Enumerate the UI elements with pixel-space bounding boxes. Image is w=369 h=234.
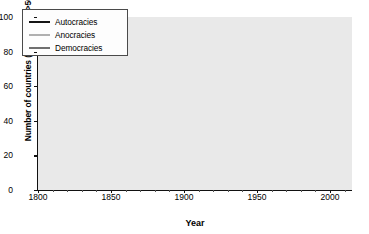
x-minor-tick-mark [272, 190, 273, 192]
legend-item-democracies: Democracies [29, 41, 127, 54]
y-tick-label: 60 [0, 81, 13, 91]
legend-item-label: Anocracies [55, 30, 95, 40]
y-tick-mark [34, 17, 37, 18]
x-tick-mark [330, 190, 331, 193]
x-minor-tick-mark [301, 190, 302, 192]
x-tick-mark [257, 190, 258, 193]
legend-item-label: Democracies [55, 43, 102, 53]
chart-figure: Number of countries (population >500,000… [0, 0, 369, 234]
x-tick-mark [111, 190, 112, 193]
legend-item-anocracies: Anocracies [29, 28, 127, 41]
x-minor-tick-mark [199, 190, 200, 192]
y-tick-label: 0 [0, 185, 13, 195]
y-tick-mark [34, 155, 37, 156]
x-minor-tick-mark [96, 190, 97, 192]
x-tick-label: 1950 [248, 192, 267, 202]
x-minor-tick-mark [213, 190, 214, 192]
x-tick-mark [38, 190, 39, 193]
x-minor-tick-mark [67, 190, 68, 192]
x-minor-tick-mark [242, 190, 243, 192]
y-tick-mark [34, 121, 37, 122]
x-minor-tick-mark [126, 190, 127, 192]
x-minor-tick-mark [315, 190, 316, 192]
x-minor-tick-mark [82, 190, 83, 192]
x-tick-label: 2000 [321, 192, 340, 202]
x-tick-mark [184, 190, 185, 193]
x-axis-label: Year [38, 218, 352, 228]
x-minor-tick-mark [228, 190, 229, 192]
legend-swatch-icon [29, 34, 50, 36]
y-tick-label: 80 [0, 47, 13, 57]
x-tick-label: 1800 [29, 192, 48, 202]
legend-item-label: Autocracies [55, 17, 97, 27]
x-minor-tick-mark [169, 190, 170, 192]
y-tick-label: 20 [0, 150, 13, 160]
x-minor-tick-mark [140, 190, 141, 192]
y-tick-mark [34, 190, 37, 191]
x-minor-tick-mark [345, 190, 346, 192]
y-tick-label: 100 [0, 12, 13, 22]
chart-legend: AutocraciesAnocraciesDemocracies [22, 9, 128, 56]
x-minor-tick-mark [286, 190, 287, 192]
x-tick-label: 1850 [102, 192, 121, 202]
legend-item-autocracies: Autocracies [29, 15, 127, 28]
x-minor-tick-mark [155, 190, 156, 192]
x-tick-label: 1900 [175, 192, 194, 202]
legend-swatch-icon [29, 47, 50, 49]
y-tick-label: 40 [0, 116, 13, 126]
y-tick-mark [34, 86, 37, 87]
y-tick-mark [34, 52, 37, 53]
legend-swatch-icon [29, 21, 50, 23]
x-minor-tick-mark [53, 190, 54, 192]
